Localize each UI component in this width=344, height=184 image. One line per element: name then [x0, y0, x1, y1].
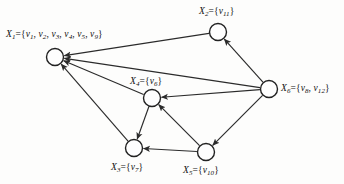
- node-label-x4: X4={v6}: [130, 77, 162, 88]
- node-label-x5: X5={v10}: [183, 166, 219, 177]
- edge-x5-to-x3: [143, 149, 196, 152]
- node-x2[interactable]: [210, 24, 227, 41]
- edge-x6-to-x2: [224, 39, 263, 82]
- nodes-layer: [47, 24, 278, 161]
- node-x5[interactable]: [198, 144, 215, 161]
- edges-layer: [61, 33, 263, 151]
- edge-x6-to-x5: [213, 95, 263, 145]
- node-label-x6: X6={v8, v12}: [281, 84, 330, 95]
- node-x6[interactable]: [261, 81, 278, 98]
- graph-figure: X1={v1, v2, v3, v4, v5, v9}X2={v11}X3={v…: [0, 0, 344, 184]
- edge-x4-to-x3: [137, 107, 149, 139]
- node-x4[interactable]: [144, 90, 161, 107]
- node-label-x3: X3={v7}: [111, 163, 143, 174]
- edge-x3-to-x1: [61, 64, 128, 141]
- edge-x5-to-x4: [159, 105, 200, 146]
- node-x1[interactable]: [47, 49, 64, 66]
- node-label-x1: X1={v1, v2, v3, v4, v5, v9}: [6, 30, 103, 41]
- node-label-x2: X2={v11}: [199, 7, 234, 18]
- edge-x6-to-x4: [161, 90, 259, 98]
- node-x3[interactable]: [126, 140, 143, 157]
